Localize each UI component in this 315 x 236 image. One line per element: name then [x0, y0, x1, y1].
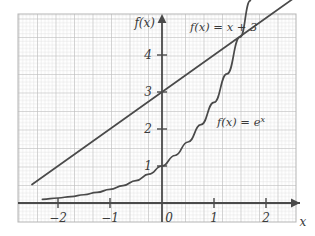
x-tick-label-neg2: −2 — [49, 211, 67, 225]
y-axis-label: f(x) — [133, 16, 155, 30]
annotation-curve-exponent: x — [260, 115, 265, 124]
y-tick-label-3: 3 — [144, 85, 152, 99]
annotation-curve-label: f(x) = ex — [216, 115, 265, 129]
x-tick-label-1: 1 — [210, 211, 218, 225]
x-tick-label-neg1: −1 — [101, 211, 119, 225]
function-graph: −2 −1 0 1 2 1 2 3 4 f(x) x f(x) = x + 3 … — [0, 0, 315, 236]
chart-figure: −2 −1 0 1 2 1 2 3 4 f(x) x f(x) = x + 3 … — [0, 0, 315, 236]
y-tick-label-1: 1 — [144, 159, 152, 173]
x-tick-label-0: 0 — [165, 211, 173, 225]
y-tick-label-4: 4 — [143, 48, 152, 62]
annotation-line-label: f(x) = x + 3 — [189, 20, 257, 34]
annotation-curve-base: f(x) = e — [216, 115, 261, 129]
x-axis-label: x — [300, 215, 307, 229]
y-tick-label-2: 2 — [143, 122, 152, 136]
x-tick-label-2: 2 — [261, 211, 270, 225]
